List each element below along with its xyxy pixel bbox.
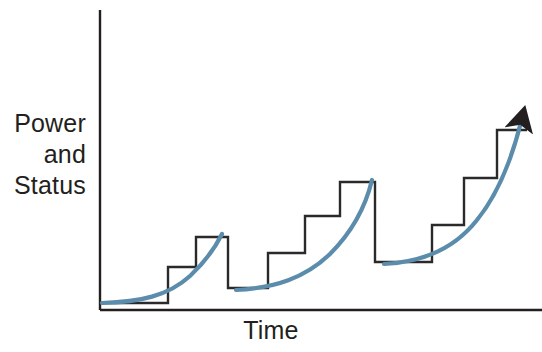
figure-root: Power and Status Time — [0, 0, 542, 352]
exponential-curve-cycle-3 — [384, 122, 521, 264]
chart-plot-area — [0, 0, 542, 352]
exponential-curve-group — [102, 122, 521, 303]
axis-lines — [100, 10, 542, 310]
step-staircase-line — [100, 130, 527, 303]
exponential-curve-cycle-1 — [102, 234, 222, 303]
